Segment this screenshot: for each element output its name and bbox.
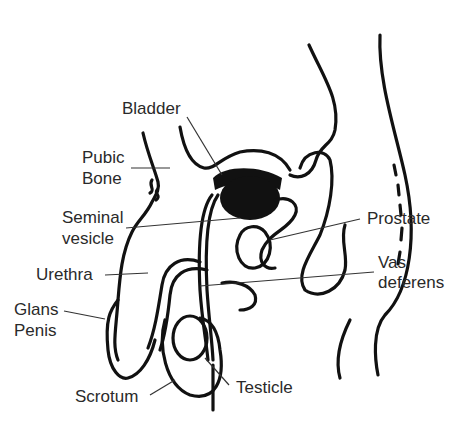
label-prostate: Prostate (367, 209, 430, 228)
label-seminal-vesicle-line2: vesicle (62, 229, 114, 248)
label-vas-deferens-line2: deferens (378, 273, 444, 292)
bladder-shape (213, 168, 282, 220)
label-glans-penis-line1: Glans (14, 300, 58, 319)
label-urethra: Urethra (36, 265, 93, 284)
label-vas-deferens-line1: Vas (378, 253, 406, 272)
labels: Bladder Pubic Bone Seminal vesicle Prost… (14, 99, 444, 406)
anatomy-diagram: Bladder Pubic Bone Seminal vesicle Prost… (0, 0, 470, 426)
label-scrotum: Scrotum (75, 387, 138, 406)
label-bladder: Bladder (122, 99, 181, 118)
label-seminal-vesicle-line1: Seminal (62, 208, 123, 227)
label-pubic-bone-line2: Bone (82, 169, 122, 188)
label-testicle: Testicle (236, 378, 293, 397)
diagram-canvas: Bladder Pubic Bone Seminal vesicle Prost… (0, 0, 470, 426)
label-glans-penis-line2: Penis (14, 321, 57, 340)
label-pubic-bone-line1: Pubic (82, 148, 125, 167)
